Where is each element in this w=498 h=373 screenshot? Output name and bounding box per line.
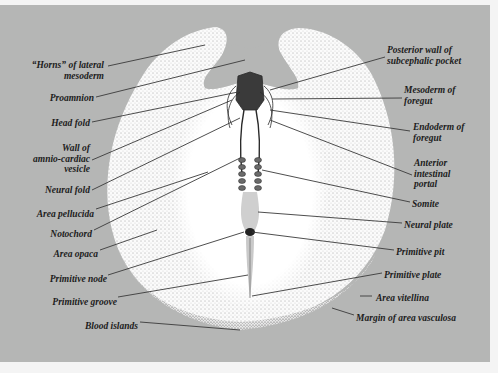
label-wall-amnio-cardiac-vesicle: Wall of amnio-cardiac vesicle xyxy=(10,143,90,175)
label-mesoderm-foregut: Mesoderm of foregut xyxy=(404,85,455,106)
label-line: foregut xyxy=(413,133,464,144)
label-line: Wall of xyxy=(10,143,90,154)
label-somite: Somite xyxy=(412,199,439,210)
label-area-pellucida: Area pellucida xyxy=(10,209,94,220)
label-line: vesicle xyxy=(10,164,90,175)
label-neural-fold: Neural fold xyxy=(10,185,90,196)
label-primitive-plate: Primitive plate xyxy=(384,270,441,281)
label-margin-area-vasculosa: Margin of area vasculosa xyxy=(356,313,456,324)
label-line: Mesoderm of xyxy=(404,85,455,96)
label-line: portal xyxy=(414,179,450,190)
label-endoderm-foregut: Endoderm of foregut xyxy=(413,122,464,143)
label-anterior-intestinal-portal: Anterior intestinal portal xyxy=(414,158,450,190)
label-line: “Horns” of lateral xyxy=(18,60,104,71)
label-proamnion: Proamnion xyxy=(10,93,94,104)
label-area-opaca: Area opaca xyxy=(10,249,98,260)
label-line: Endoderm of xyxy=(413,122,464,133)
label-line: Posterior wall of xyxy=(387,45,461,56)
label-line: mesoderm xyxy=(18,71,104,82)
label-primitive-groove: Primitive groove xyxy=(10,297,117,308)
label-line: intestinal xyxy=(414,169,450,180)
label-blood-islands: Blood islands xyxy=(10,321,138,332)
label-neural-plate: Neural plate xyxy=(404,220,453,231)
label-primitive-pit: Primitive pit xyxy=(396,247,444,258)
label-posterior-wall-subcephalic-pocket: Posterior wall of subcephalic pocket xyxy=(387,45,461,66)
label-primitive-node: Primitive node xyxy=(10,274,107,285)
diagram-panel: “Horns” of lateral mesoderm Proamnion He… xyxy=(0,5,490,362)
label-area-vitellina: Area vitellina xyxy=(376,293,429,304)
label-head-fold: Head fold xyxy=(10,118,90,129)
label-notochord: Notochord xyxy=(10,229,92,240)
label-line: amnio-cardiac xyxy=(10,154,90,165)
label-line: Anterior xyxy=(414,158,450,169)
label-line: subcephalic pocket xyxy=(387,56,461,67)
label-horns-lateral-mesoderm: “Horns” of lateral mesoderm xyxy=(18,60,104,81)
label-line: foregut xyxy=(404,96,455,107)
